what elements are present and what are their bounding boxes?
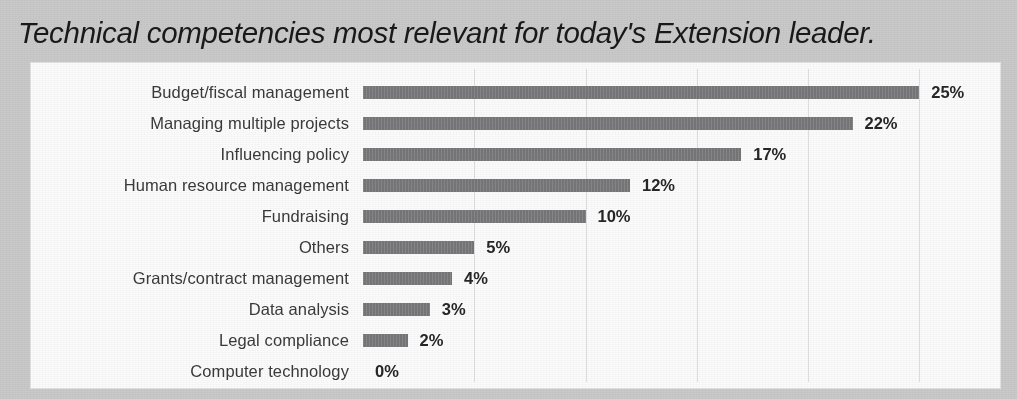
plot-area: Budget/fiscal management25%Managing mult… bbox=[30, 62, 1001, 389]
category-label: Human resource management bbox=[31, 170, 349, 201]
bar-row: Legal compliance2% bbox=[31, 325, 1000, 356]
bar-value-label: 25% bbox=[931, 77, 964, 108]
chart-figure: Technical competencies most relevant for… bbox=[0, 0, 1017, 399]
category-label: Budget/fiscal management bbox=[31, 77, 349, 108]
chart-title: Technical competencies most relevant for… bbox=[18, 13, 993, 53]
category-label: Managing multiple projects bbox=[31, 108, 349, 139]
bar-row: Fundraising10% bbox=[31, 201, 1000, 232]
bar-value-label: 2% bbox=[420, 325, 444, 356]
bar-rows: Budget/fiscal management25%Managing mult… bbox=[31, 77, 1000, 387]
bar-track: 0% bbox=[363, 356, 1000, 387]
bar-value-label: 10% bbox=[598, 201, 631, 232]
bar-row: Data analysis3% bbox=[31, 294, 1000, 325]
bar-track: 22% bbox=[363, 108, 1000, 139]
bar bbox=[363, 241, 474, 254]
bar-row: Managing multiple projects22% bbox=[31, 108, 1000, 139]
category-label: Computer technology bbox=[31, 356, 349, 387]
bar-value-label: 12% bbox=[642, 170, 675, 201]
bar-track: 12% bbox=[363, 170, 1000, 201]
bar-track: 2% bbox=[363, 325, 1000, 356]
bar-track: 3% bbox=[363, 294, 1000, 325]
bar bbox=[363, 117, 853, 130]
bar bbox=[363, 86, 919, 99]
bar-row: Computer technology0% bbox=[31, 356, 1000, 387]
bar-value-label: 17% bbox=[753, 139, 786, 170]
bar-track: 10% bbox=[363, 201, 1000, 232]
bar bbox=[363, 272, 452, 285]
category-label: Influencing policy bbox=[31, 139, 349, 170]
category-label: Others bbox=[31, 232, 349, 263]
bar-row: Influencing policy17% bbox=[31, 139, 1000, 170]
category-label: Legal compliance bbox=[31, 325, 349, 356]
bar bbox=[363, 210, 586, 223]
category-label: Fundraising bbox=[31, 201, 349, 232]
category-label: Grants/contract management bbox=[31, 263, 349, 294]
bar-row: Others5% bbox=[31, 232, 1000, 263]
category-label: Data analysis bbox=[31, 294, 349, 325]
bar-value-label: 22% bbox=[865, 108, 898, 139]
bar bbox=[363, 179, 630, 192]
bar-track: 17% bbox=[363, 139, 1000, 170]
bar-row: Budget/fiscal management25% bbox=[31, 77, 1000, 108]
bar-track: 25% bbox=[363, 77, 1000, 108]
bar-value-label: 5% bbox=[486, 232, 510, 263]
bar-row: Human resource management12% bbox=[31, 170, 1000, 201]
bar-row: Grants/contract management4% bbox=[31, 263, 1000, 294]
bar bbox=[363, 148, 741, 161]
bar-value-label: 0% bbox=[375, 356, 399, 387]
bar-track: 5% bbox=[363, 232, 1000, 263]
bar-value-label: 4% bbox=[464, 263, 488, 294]
bar-track: 4% bbox=[363, 263, 1000, 294]
bar bbox=[363, 334, 408, 347]
bar-value-label: 3% bbox=[442, 294, 466, 325]
bar bbox=[363, 303, 430, 316]
